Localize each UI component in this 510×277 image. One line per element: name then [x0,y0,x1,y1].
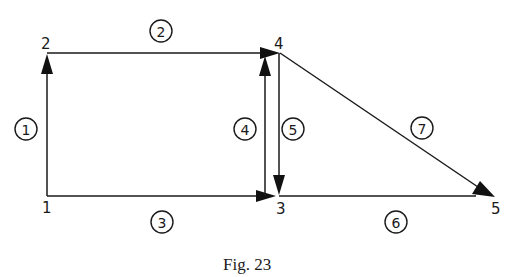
network-diagram: 1 2 3 4 5 1 2 3 4 5 6 7 Fig. 23 [0,0,510,277]
svg-text:5: 5 [289,122,298,138]
edge-label-3: 3 [151,211,173,233]
edge-label-4: 4 [234,118,256,140]
edge-label-6: 6 [385,211,407,233]
arrowhead-icon [256,190,276,202]
svg-text:3: 3 [158,215,167,231]
node-label-4: 4 [274,35,284,53]
arrowhead-icon [41,54,53,74]
node-label-5: 5 [491,200,501,218]
svg-text:2: 2 [157,24,166,40]
svg-text:7: 7 [418,121,427,137]
svg-text:4: 4 [241,122,250,138]
edge-2 [47,47,280,59]
svg-text:6: 6 [392,215,401,231]
arrowhead-icon [273,175,285,195]
edge-4 [259,56,271,196]
node-label-1: 1 [42,199,52,217]
node-label-2: 2 [41,35,51,53]
edge-label-7: 7 [411,117,433,139]
edge-3 [47,190,276,202]
svg-text:1: 1 [22,122,31,138]
arrowhead-icon [259,56,271,76]
edge-7 [280,53,495,197]
edge-1 [41,54,53,196]
edge-label-1: 1 [15,118,37,140]
node-label-3: 3 [276,200,286,218]
arrowhead-icon [472,181,495,197]
edge-label-2: 2 [150,20,172,42]
edge-label-5: 5 [282,118,304,140]
figure-caption: Fig. 23 [223,255,271,274]
